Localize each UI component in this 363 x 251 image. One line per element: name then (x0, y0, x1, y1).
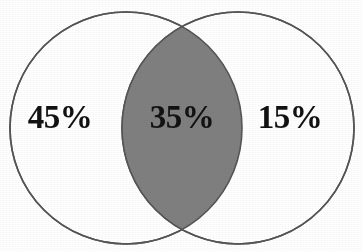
venn-diagram-figure: 45% 35% 15% (0, 0, 363, 251)
intersection-percentage-label: 35% (150, 99, 215, 135)
left-only-percentage-label: 45% (28, 99, 93, 135)
right-only-percentage-label: 15% (258, 99, 323, 135)
venn-diagram-canvas: 45% 35% 15% (0, 0, 363, 251)
